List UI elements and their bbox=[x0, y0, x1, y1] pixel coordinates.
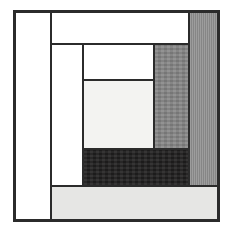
patch-top-white-strip bbox=[51, 12, 189, 44]
patch-right-gray-strip bbox=[189, 12, 218, 186]
patch-center-offwhite-patch bbox=[83, 80, 154, 149]
patch-dark-bottom-patch bbox=[83, 149, 189, 186]
patch-bottom-light-gray-strip bbox=[51, 186, 218, 220]
patch-inner-white-patch bbox=[83, 44, 154, 80]
quilt-block-frame bbox=[13, 10, 220, 222]
quilt-block-canvas bbox=[0, 0, 232, 233]
patch-second-white-column bbox=[51, 44, 83, 186]
patch-medium-gray-patch bbox=[154, 44, 189, 149]
patch-left-white-strip bbox=[15, 12, 51, 220]
